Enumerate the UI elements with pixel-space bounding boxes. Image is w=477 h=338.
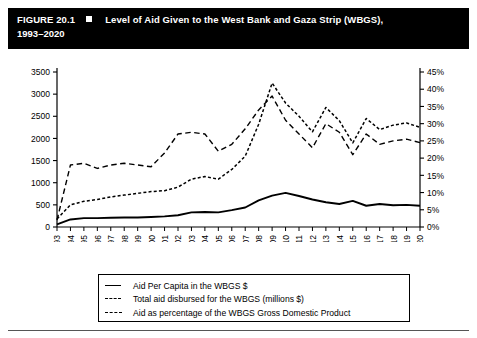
x-axis-tick-2013: 2013 bbox=[321, 235, 331, 242]
x-axis-tick-1998: 1998 bbox=[120, 235, 130, 242]
x-axis-tick-2010: 2010 bbox=[281, 235, 291, 242]
right-axis-tick-15pct: 15% bbox=[427, 171, 444, 181]
x-axis-tick-1997: 1997 bbox=[106, 235, 116, 242]
left-axis-tick-2000: 2000 bbox=[31, 134, 50, 144]
right-axis-tick-10pct: 10% bbox=[427, 188, 444, 198]
left-axis-tick-500: 500 bbox=[36, 200, 50, 210]
chart-axes bbox=[53, 68, 424, 231]
x-axis-tick-2014: 2014 bbox=[335, 235, 345, 242]
right-axis-tick-20pct: 20% bbox=[427, 153, 444, 163]
figure-number: FIGURE 20.1 bbox=[17, 13, 75, 26]
x-axis-tick-2020: 2020 bbox=[415, 235, 425, 242]
x-axis-tick-2015: 2015 bbox=[348, 235, 358, 242]
figure-title-text: Level of Aid Given to the West Bank and … bbox=[105, 13, 383, 26]
right-axis-tick-40pct: 40% bbox=[427, 84, 444, 94]
legend-label-2: Aid as percentage of the WBGS Gross Dome… bbox=[133, 308, 350, 318]
x-axis-tick-1996: 1996 bbox=[93, 235, 103, 242]
x-axis-tick-1995: 1995 bbox=[79, 235, 89, 242]
x-axis-tick-1994: 1994 bbox=[66, 235, 76, 242]
black-square-icon bbox=[86, 16, 92, 22]
x-axis-tick-2018: 2018 bbox=[389, 235, 399, 242]
footer-divider bbox=[8, 330, 469, 331]
left-axis-tick-3500: 3500 bbox=[31, 67, 50, 77]
line-chart: 0500100015002000250030003500 0%5%10%15%2… bbox=[0, 52, 477, 242]
right-axis-tick-35pct: 35% bbox=[427, 102, 444, 112]
x-axis-tick-2006: 2006 bbox=[227, 235, 237, 242]
legend-item-total-aid: Total aid disbursed for the WBGS (millio… bbox=[105, 293, 409, 307]
right-axis-tick-25pct: 25% bbox=[427, 136, 444, 146]
chart-area: 0500100015002000250030003500 0%5%10%15%2… bbox=[0, 52, 477, 242]
x-axis-tick-2004: 2004 bbox=[200, 235, 210, 242]
x-axis-tick-2002: 2002 bbox=[173, 235, 183, 242]
right-axis-tick-45pct: 45% bbox=[427, 67, 444, 77]
x-axis-tick-2012: 2012 bbox=[308, 235, 318, 242]
legend-item-aid-per-capita: Aid Per Capita in the WBGS $ bbox=[105, 279, 409, 293]
x-axis-tick-2009: 2009 bbox=[268, 235, 278, 242]
legend-item-aid-percentage-gdp: Aid as percentage of the WBGS Gross Dome… bbox=[105, 306, 409, 320]
series-line-1 bbox=[57, 83, 420, 219]
right-axis-tick-5pct: 5% bbox=[427, 205, 440, 215]
figure-title-subline: 1993–2020 bbox=[17, 27, 461, 41]
x-axis-tick-1999: 1999 bbox=[133, 235, 143, 242]
x-axis-tick-2000: 2000 bbox=[147, 235, 157, 242]
series-line-2 bbox=[57, 96, 420, 220]
left-axis-tick-0: 0 bbox=[45, 222, 50, 232]
x-axis-tick-2003: 2003 bbox=[187, 235, 197, 242]
legend-key-dotted-line-icon bbox=[105, 294, 127, 304]
series-line-0 bbox=[57, 193, 420, 224]
x-axis-tick-2005: 2005 bbox=[214, 235, 224, 242]
x-axis-tick-2011: 2011 bbox=[294, 235, 304, 242]
legend-key-dashed-line-icon bbox=[105, 308, 127, 318]
left-axis-tick-1500: 1500 bbox=[31, 156, 50, 166]
x-axis-tick-2008: 2008 bbox=[254, 235, 264, 242]
left-axis-tick-1000: 1000 bbox=[31, 178, 50, 188]
x-axis-tick-2016: 2016 bbox=[362, 235, 372, 242]
chart-legend: Aid Per Capita in the WBGS $ Total aid d… bbox=[98, 274, 410, 322]
legend-key-solid-line-icon bbox=[105, 281, 127, 291]
x-axis-tick-2007: 2007 bbox=[241, 235, 251, 242]
right-axis-ticklabels: 0%5%10%15%20%25%30%35%40%45% bbox=[427, 67, 444, 232]
figure-container: FIGURE 20.1 Level of Aid Given to the We… bbox=[0, 0, 477, 338]
figure-title-bar: FIGURE 20.1 Level of Aid Given to the We… bbox=[8, 8, 469, 49]
left-axis-tick-3000: 3000 bbox=[31, 89, 50, 99]
legend-label-0: Aid Per Capita in the WBGS $ bbox=[133, 281, 248, 291]
chart-series-group bbox=[57, 83, 420, 224]
figure-title-row: FIGURE 20.1 Level of Aid Given to the We… bbox=[17, 13, 461, 26]
x-axis-ticklabels: 1993199419951996199719981999200020012002… bbox=[52, 235, 425, 242]
x-axis-tick-2001: 2001 bbox=[160, 235, 170, 242]
right-axis-tick-0pct: 0% bbox=[427, 222, 440, 232]
left-axis-tick-2500: 2500 bbox=[31, 111, 50, 121]
left-axis-ticklabels: 0500100015002000250030003500 bbox=[31, 67, 50, 232]
x-axis-tick-1993: 1993 bbox=[52, 235, 62, 242]
right-axis-tick-30pct: 30% bbox=[427, 119, 444, 129]
x-axis-tick-2017: 2017 bbox=[375, 235, 385, 242]
legend-label-1: Total aid disbursed for the WBGS (millio… bbox=[133, 294, 304, 304]
x-axis-tick-2019: 2019 bbox=[402, 235, 412, 242]
